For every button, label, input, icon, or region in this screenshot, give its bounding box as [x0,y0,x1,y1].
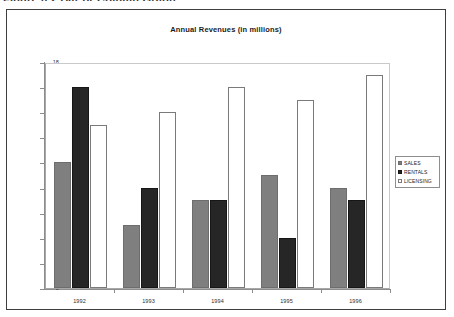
bar-rentals-1996 [348,200,365,288]
legend-item-label: SALES [404,160,421,166]
x-axis-line [44,289,391,290]
x-tick-mark [390,289,391,293]
bar-licensing-1995 [297,100,314,288]
legend-item-rentals[interactable]: RENTALS [398,168,438,176]
bar-sales-1995 [261,175,278,288]
bar-sales-1994 [192,200,209,288]
x-tick-label: 1996 [336,298,376,304]
legend-item-label: RENTALS [404,169,427,175]
bar-sales-1993 [123,225,140,288]
bar-licensing-1993 [159,112,176,288]
bar-licensing-1994 [228,87,245,288]
x-tick-mark [252,289,253,293]
plot-area [45,63,390,289]
bar-licensing-1996 [366,75,383,288]
chart-legend: SALESRENTALSLICENSING [395,156,440,188]
x-tick-mark [321,289,322,293]
legend-swatch-icon [398,179,402,183]
x-tick-label: 1993 [129,298,169,304]
x-tick-label: 1994 [198,298,238,304]
bar-rentals-1993 [141,188,158,288]
x-tick-label: 1992 [60,298,100,304]
legend-swatch-icon [398,161,402,165]
bar-rentals-1992 [72,87,89,288]
x-tick-label: 1995 [267,298,307,304]
x-tick-mark [114,289,115,293]
figure-caption: Figure 6.2 Bar or Column Graph [3,0,176,1]
bar-rentals-1994 [210,200,227,288]
bar-sales-1996 [330,188,347,288]
y-tick-mark [40,289,45,290]
bar-licensing-1992 [90,125,107,288]
legend-item-label: LICENSING [404,178,432,184]
bars-container [46,64,389,288]
x-tick-mark [183,289,184,293]
chart-title: Annual Revenues (in millions) [7,25,445,34]
bar-sales-1992 [54,162,71,288]
figure-frame: Annual Revenues (in millions) 1816141210… [6,9,446,310]
legend-item-licensing[interactable]: LICENSING [398,177,438,185]
legend-item-sales[interactable]: SALES [398,159,438,167]
legend-swatch-icon [398,170,402,174]
bar-rentals-1995 [279,238,296,288]
